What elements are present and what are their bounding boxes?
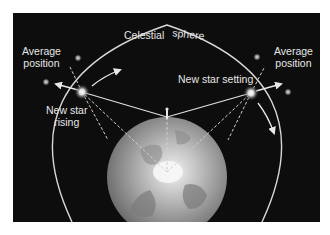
label-line: position bbox=[22, 57, 61, 69]
new-star-setting bbox=[243, 85, 259, 101]
new-star-rising bbox=[74, 84, 90, 100]
left-average-dot-top bbox=[74, 54, 82, 62]
label-line: New star setting bbox=[178, 73, 253, 85]
right-average-dot-top bbox=[253, 53, 261, 61]
label-line: rising bbox=[46, 116, 87, 128]
rising-star-label: New star rising bbox=[46, 104, 87, 128]
arrow-right-displacement bbox=[256, 84, 281, 91]
label-line: New star bbox=[46, 104, 87, 116]
left-average-label: Average position bbox=[22, 45, 61, 69]
right-average-label: Average position bbox=[274, 45, 313, 69]
label-line: Average bbox=[22, 45, 61, 57]
setting-star-label: New star setting bbox=[178, 73, 253, 85]
label-line: Average bbox=[274, 45, 313, 57]
arrow-setting-down bbox=[258, 103, 274, 133]
label-line: position bbox=[274, 57, 313, 69]
arrow-rising-up bbox=[92, 70, 120, 86]
celestial-sphere-label: Celestial bbox=[124, 29, 164, 41]
left-average-dot-side bbox=[42, 78, 50, 86]
right-average-dot-side bbox=[284, 88, 292, 96]
celestial-sphere-label-2: sphere bbox=[172, 26, 205, 41]
